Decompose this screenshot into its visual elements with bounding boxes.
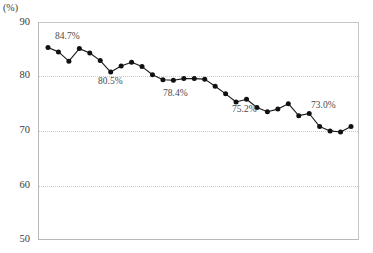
data-point [265,109,270,114]
data-point [150,72,155,77]
y-axis-tick-70: 70 [4,125,30,135]
data-point [244,97,249,102]
data-point [338,130,343,135]
data-point [296,113,301,118]
data-series-line [39,23,360,241]
annotation-75-2: 75.2% [232,104,257,114]
data-point [349,124,354,129]
y-axis-unit-label: (%) [3,2,18,13]
y-axis-tick-60: 60 [4,180,30,190]
data-point [87,50,92,55]
y-axis-tick-50: 50 [4,234,30,244]
data-point [181,76,186,81]
annotation-84-7: 84.7% [55,31,80,41]
data-point [328,128,333,133]
data-point [202,77,207,82]
line-chart: (%) 90 80 70 60 50 84.7% 80.5% 78.4% 75.… [0,0,373,253]
annotation-73-0: 73.0% [311,100,336,110]
plot-area [38,22,359,240]
data-point [77,46,82,51]
data-point [160,77,165,82]
data-point [140,64,145,69]
data-point [317,124,322,129]
annotation-80-5: 80.5% [98,76,123,86]
annotation-78-4: 78.4% [163,88,188,98]
data-point [119,64,124,69]
data-point [286,101,291,106]
data-point [223,91,228,96]
data-point [129,60,134,65]
data-point [46,45,51,50]
y-axis-tick-90: 90 [4,17,30,27]
data-point [171,78,176,83]
data-point [108,70,113,75]
data-point [213,84,218,89]
data-point [275,107,280,112]
data-point [307,111,312,116]
y-axis-tick-80: 80 [4,70,30,80]
data-point [192,76,197,81]
data-point [66,59,71,64]
data-point [98,58,103,63]
data-point [56,49,61,54]
